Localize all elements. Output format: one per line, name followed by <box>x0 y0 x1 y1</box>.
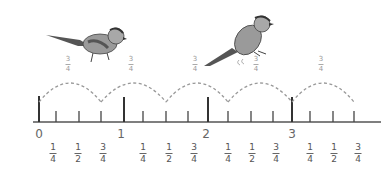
fraction-label: 14 <box>140 143 147 164</box>
jump-label: 34 <box>319 56 324 73</box>
whole-label-0: 0 <box>35 127 43 141</box>
jump-label: 34 <box>254 56 259 73</box>
jump-arcs <box>39 83 354 102</box>
jump-label: 34 <box>129 56 134 73</box>
jump-label: 34 <box>66 56 71 73</box>
fraction-label: 12 <box>75 143 82 164</box>
fraction-label: 12 <box>166 143 173 164</box>
whole-label-2: 2 <box>202 127 210 141</box>
whole-label-1: 1 <box>117 127 125 141</box>
number-line-diagram: 34 34 34 34 34 0 1 2 3 14 12 34 14 12 34… <box>0 0 383 183</box>
whole-label-3: 3 <box>288 127 296 141</box>
fraction-label: 12 <box>331 143 338 164</box>
jump-label: 34 <box>193 56 198 73</box>
fraction-label: 14 <box>50 143 57 164</box>
bird-left-icon <box>46 28 127 62</box>
fraction-label: 34 <box>355 143 362 164</box>
fraction-label: 34 <box>100 143 107 164</box>
fraction-label: 14 <box>307 143 314 164</box>
fraction-label: 14 <box>225 143 232 164</box>
quarter-ticks <box>56 111 354 122</box>
fraction-label: 34 <box>191 143 198 164</box>
fraction-label: 12 <box>249 143 256 164</box>
fraction-label: 34 <box>273 143 280 164</box>
bird-right-icon <box>204 16 274 66</box>
